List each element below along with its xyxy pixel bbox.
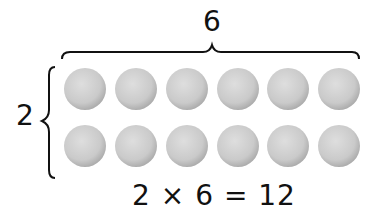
rows-label: 2 xyxy=(16,102,34,130)
top-brace xyxy=(62,45,359,59)
left-brace xyxy=(42,67,55,178)
equation: 2 × 6 = 12 xyxy=(0,182,382,210)
counter-grid xyxy=(64,68,360,167)
columns-label: 6 xyxy=(203,8,221,36)
